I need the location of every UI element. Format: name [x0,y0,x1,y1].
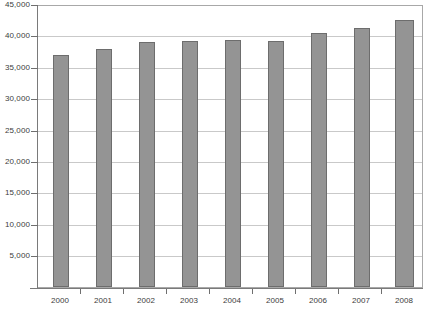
x-axis-label-2006: 2006 [298,296,338,305]
y-axis-label-20000: 20,000 [0,158,30,166]
y-axis-line [37,5,38,289]
y-axis-tick [31,256,38,257]
y-axis-label-45000: 45,000 [0,1,30,9]
x-axis-tick [80,289,81,294]
y-axis-label-40000: 40,000 [0,32,30,40]
bar-2005 [268,41,284,287]
plot-area [37,5,423,288]
x-axis-label-2001: 2001 [83,296,123,305]
bar-2008 [395,20,414,287]
y-axis-labels: 45,000 40,000 35,000 30,000 25,000 20,00… [0,0,30,316]
x-axis-tick [252,289,253,294]
y-axis-tick [31,99,38,100]
y-axis-tick [31,5,38,6]
y-axis-label-30000: 30,000 [0,95,30,103]
x-axis-label-2003: 2003 [169,296,209,305]
y-axis-label-15000: 15,000 [0,189,30,197]
bar-2002 [139,42,155,287]
y-axis-tick [31,36,38,37]
y-axis-tick [31,193,38,194]
x-axis-label-2004: 2004 [212,296,252,305]
x-axis-label-2002: 2002 [126,296,166,305]
x-axis-label-2008: 2008 [384,296,424,305]
y-axis-tick [31,68,38,69]
x-axis-tick [209,289,210,294]
y-axis-tick [31,131,38,132]
bar-2004 [225,40,241,287]
x-axis-tick [381,289,382,294]
y-axis-label-10000: 10,000 [0,221,30,229]
x-axis-tick [123,289,124,294]
y-axis-tick [31,162,38,163]
x-axis-label-2007: 2007 [341,296,381,305]
bar-2007 [354,28,370,287]
x-axis-tick [295,289,296,294]
y-axis-tick [31,225,38,226]
y-axis-label-5000: 5,000 [0,252,30,260]
y-axis-label-35000: 35,000 [0,64,30,72]
bar-2000 [53,55,69,287]
bar-2003 [182,41,198,287]
y-axis-label-25000: 25,000 [0,127,30,135]
x-axis-tick [166,289,167,294]
x-axis-label-2000: 2000 [40,296,80,305]
x-axis-tick [338,289,339,294]
bar-2001 [96,49,112,287]
bar-chart: 45,000 40,000 35,000 30,000 25,000 20,00… [0,0,428,316]
x-axis-line [30,288,423,289]
bar-2006 [311,33,327,287]
x-axis-label-2005: 2005 [255,296,295,305]
